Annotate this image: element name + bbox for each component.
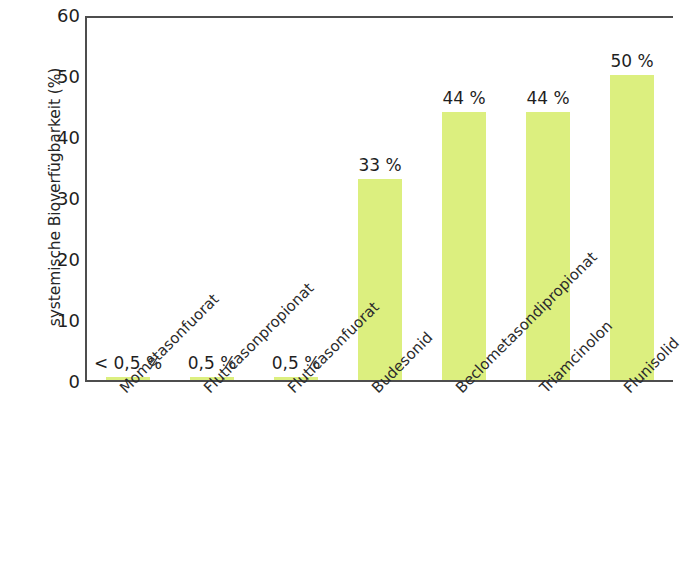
y-axis-tick-label: 30 <box>42 190 80 208</box>
x-axis-category-labels: MometasonfuoratFluticasonpropionatFlutic… <box>85 384 673 573</box>
y-axis-tick-label: 60 <box>42 7 80 25</box>
y-axis-tick-label: 0 <box>42 373 80 391</box>
bar-value-label: 33 % <box>335 157 425 174</box>
bar-value-label: 44 % <box>419 90 509 107</box>
bar <box>358 179 402 380</box>
bar <box>526 112 570 380</box>
y-axis-tick-label: 40 <box>42 129 80 147</box>
bar-value-label: 50 % <box>587 53 677 70</box>
bar <box>610 75 654 380</box>
y-axis-tick-label: 50 <box>42 68 80 86</box>
y-axis-tick-label: 10 <box>42 312 80 330</box>
bar <box>442 112 486 380</box>
y-axis-tick-label: 20 <box>42 251 80 269</box>
y-axis-tick-labels: 6050403020100 <box>38 0 80 573</box>
bar-value-label: 44 % <box>503 90 593 107</box>
